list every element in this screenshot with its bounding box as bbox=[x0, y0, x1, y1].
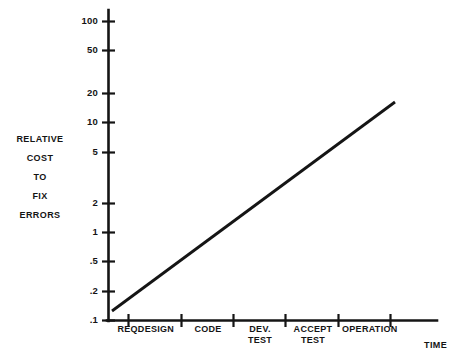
x-axis-title: TIME bbox=[424, 340, 447, 350]
y-tick-label-10: 10 bbox=[58, 117, 98, 127]
cost-growth-line bbox=[112, 102, 395, 311]
x-tick-label-operation: OPERATION bbox=[342, 324, 394, 335]
y-tick-label-point5: .5 bbox=[58, 256, 98, 266]
y-axis-title-line-1: RELATIVE bbox=[4, 130, 76, 149]
y-tick-label-100: 100 bbox=[58, 16, 98, 26]
y-tick-label-20: 20 bbox=[58, 88, 98, 98]
y-tick-label-point1: .1 bbox=[58, 315, 98, 325]
y-axis-title-line-2: COST bbox=[4, 149, 76, 168]
x-tick-label-design: DESIGN bbox=[133, 324, 179, 335]
y-tick-label-50: 50 bbox=[58, 45, 98, 55]
y-tick-label-point2: .2 bbox=[58, 286, 98, 296]
x-tick-label-dev-test: DEV. TEST bbox=[240, 324, 280, 346]
y-axis-title-line-4: FIX bbox=[4, 187, 76, 206]
y-axis-title-line-5: ERRORS bbox=[4, 206, 76, 225]
chart-container: 100 50 20 10 5 2 1 .5 .2 .1 RELATIVE COS… bbox=[0, 0, 460, 363]
x-tick-label-code: CODE bbox=[189, 324, 227, 335]
y-axis-title: RELATIVE COST TO FIX ERRORS bbox=[4, 130, 76, 225]
x-tick-label-accept-test: ACCEPT TEST bbox=[291, 324, 335, 346]
y-tick-label-1: 1 bbox=[58, 227, 98, 237]
y-axis-title-line-3: TO bbox=[4, 168, 76, 187]
